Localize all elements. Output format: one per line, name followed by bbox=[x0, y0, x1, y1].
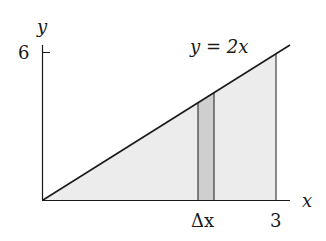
diagram-canvas bbox=[0, 0, 326, 241]
x-tick-label: 3 bbox=[270, 212, 281, 230]
delta-x-strip bbox=[198, 93, 214, 200]
curve-label: y = 2x bbox=[190, 38, 248, 56]
y-tick-label: 6 bbox=[18, 44, 29, 62]
strip-label: Δx bbox=[191, 212, 214, 230]
x-axis-label: x bbox=[302, 192, 312, 210]
y-axis-label: y bbox=[37, 18, 47, 36]
